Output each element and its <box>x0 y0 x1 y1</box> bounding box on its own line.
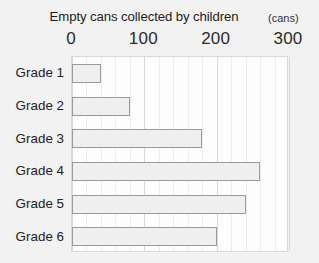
plot-area <box>71 56 288 252</box>
y-axis-category-labels: Grade 1Grade 2Grade 3Grade 4Grade 5Grade… <box>0 56 71 252</box>
bar-grade-1 <box>72 64 101 83</box>
bar-grade-5 <box>72 195 246 214</box>
bar-grade-2 <box>72 97 130 116</box>
x-tick-label-0: 0 <box>66 29 76 49</box>
y-tick-label-grade-1: Grade 1 <box>16 65 64 80</box>
y-tick-label-grade-6: Grade 6 <box>16 228 64 243</box>
bar-grade-6 <box>72 227 217 246</box>
chart-header: Empty cans collected by children (cans) <box>0 9 319 27</box>
x-tick-label-200: 200 <box>201 29 230 49</box>
x-tick-label-300: 300 <box>274 29 303 49</box>
bar-grade-4 <box>72 162 260 181</box>
bars-layer <box>72 57 287 251</box>
bar-grade-3 <box>72 129 202 148</box>
y-tick-label-grade-5: Grade 5 <box>16 196 64 211</box>
y-tick-label-grade-2: Grade 2 <box>16 98 64 113</box>
y-tick-label-grade-3: Grade 3 <box>16 130 64 145</box>
bar-chart: Empty cans collected by children (cans) … <box>0 0 319 263</box>
gridline-300 <box>289 57 290 251</box>
y-tick-label-grade-4: Grade 4 <box>16 163 64 178</box>
x-axis-tick-labels: 0100200300 <box>0 29 319 51</box>
unit-label: (cans) <box>268 12 299 24</box>
chart-title: Empty cans collected by children <box>0 9 288 24</box>
x-tick-label-100: 100 <box>129 29 158 49</box>
